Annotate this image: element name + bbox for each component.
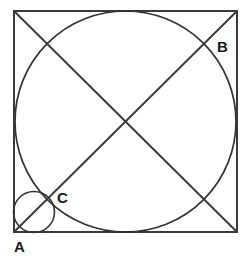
geometry-figure: A B C (0, 0, 248, 259)
vertex-label-a: A (14, 238, 25, 255)
vertex-label-c: C (57, 189, 68, 206)
vertex-label-b: B (217, 38, 228, 55)
geometry-diagram: A B C (0, 0, 248, 259)
